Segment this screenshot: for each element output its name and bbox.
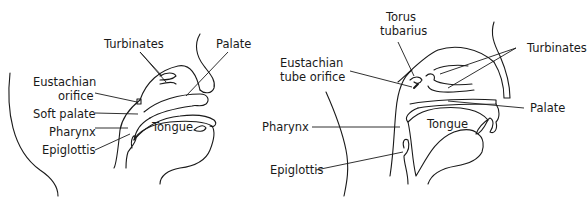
left-figure: Turbinates Palate Eustachian orifice Sof… (9, 34, 251, 196)
right-neck-outline (326, 92, 348, 196)
left-lead-palate (186, 52, 228, 96)
left-label-eustachian-2: orifice (58, 89, 94, 103)
right-label-torus-2: tubarius (380, 24, 427, 38)
right-torus-tubarius (410, 77, 422, 83)
left-label-soft-palate: Soft palate (33, 107, 96, 121)
right-label-tongue: Tongue (426, 117, 468, 131)
left-label-epiglottis: Epiglottis (42, 143, 96, 157)
right-label-epiglottis: Epiglottis (270, 163, 324, 177)
right-label-turbinates: Turbinates (526, 41, 587, 55)
right-label-eustachian-1: Eustachian (280, 56, 343, 70)
right-lead-torus (398, 42, 414, 76)
right-label-pharynx: Pharynx (262, 120, 309, 134)
right-label-palate: Palate (530, 101, 565, 115)
right-lead-eustachian (350, 71, 412, 87)
left-label-eustachian-1: Eustachian (33, 75, 96, 89)
right-turbinate-base (428, 86, 474, 92)
left-label-turbinates: Turbinates (103, 37, 164, 51)
left-lead-soft-palate (95, 113, 138, 114)
left-epiglottis (126, 136, 136, 168)
right-epiglottis (403, 139, 409, 184)
left-label-tongue: Tongue (151, 120, 193, 134)
right-eustachian-mark (414, 84, 418, 88)
left-turbinate-lower (160, 83, 176, 85)
left-lead-turbinates-2 (140, 52, 166, 82)
left-label-palate: Palate (216, 37, 251, 51)
right-palate (410, 99, 496, 108)
left-palate (144, 94, 208, 118)
left-lead-eustachian (95, 93, 137, 102)
airway-diagram: Turbinates Palate Eustachian orifice Sof… (0, 0, 588, 211)
left-lip (194, 126, 206, 131)
right-figure: Torus tubarius Eustachian tube orifice T… (262, 10, 587, 196)
right-lead-epiglottis (316, 152, 403, 170)
left-face-profile (197, 34, 215, 93)
left-turbinate-upper (160, 73, 176, 80)
right-turbinate-lower (426, 74, 472, 85)
right-nasal-roof (398, 47, 494, 82)
left-label-pharynx: Pharynx (49, 125, 96, 139)
right-label-torus-1: Torus (385, 10, 416, 24)
right-tongue (408, 122, 483, 184)
left-lead-epiglottis (95, 134, 130, 150)
right-label-eustachian-2: tube orifice (280, 70, 345, 84)
